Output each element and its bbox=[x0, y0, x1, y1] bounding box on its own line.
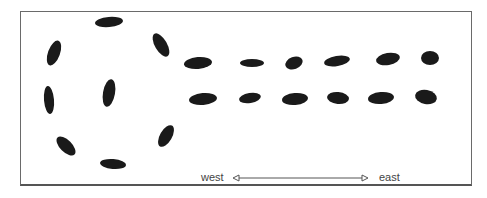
south-row-stone bbox=[238, 91, 261, 105]
north-row-stone bbox=[375, 51, 401, 67]
circle-stone bbox=[155, 123, 177, 150]
west-east-arrow bbox=[233, 175, 368, 181]
north-row-stone bbox=[240, 59, 264, 67]
north-row-stone bbox=[184, 56, 213, 70]
circle-stone bbox=[149, 31, 172, 60]
north-row-stone bbox=[283, 54, 304, 71]
circle-stone bbox=[44, 39, 64, 68]
south-row-stone bbox=[414, 88, 438, 106]
south-row-stone bbox=[189, 92, 218, 106]
circle-stone bbox=[101, 78, 118, 108]
south-row-stone bbox=[282, 92, 309, 106]
south-row-stone bbox=[368, 91, 395, 105]
circle-stone bbox=[100, 158, 127, 170]
circle-stone bbox=[95, 16, 124, 28]
west-label: west bbox=[201, 171, 224, 183]
south-row-stone bbox=[327, 91, 350, 105]
north-row-stone bbox=[323, 54, 350, 68]
circle-stone bbox=[43, 86, 55, 115]
stone-layout-diagram bbox=[0, 0, 487, 198]
circle-stone bbox=[53, 133, 78, 158]
north-row-stone bbox=[421, 51, 439, 65]
east-label: east bbox=[379, 171, 400, 183]
